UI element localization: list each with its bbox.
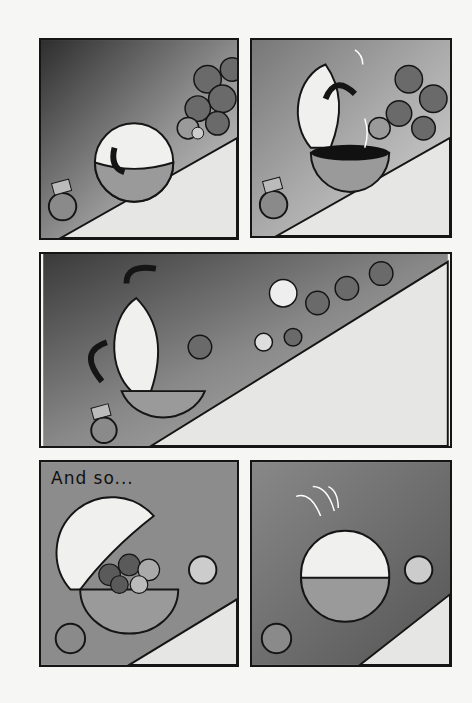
panel-2-art xyxy=(252,40,450,236)
panel-3-art xyxy=(41,254,450,446)
comic-panel-1 xyxy=(39,38,239,240)
caption-and-so: And so... xyxy=(51,468,134,488)
chief-character xyxy=(262,624,291,653)
comic-panel-4: And so... xyxy=(39,460,239,667)
comic-panel-2 xyxy=(250,38,452,238)
comic-panel-5 xyxy=(250,460,452,667)
waving-dog xyxy=(189,556,216,583)
chief-character xyxy=(56,624,85,653)
panel-1-art xyxy=(41,40,237,238)
panel-4-art xyxy=(41,462,237,665)
comic-panel-3 xyxy=(39,252,452,448)
dog xyxy=(405,556,432,583)
panel-5-art xyxy=(252,462,450,665)
